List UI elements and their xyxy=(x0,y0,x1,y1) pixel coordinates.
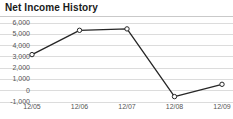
page-title: Net Income History xyxy=(5,2,98,13)
data-point-marker xyxy=(30,52,34,56)
data-point-marker xyxy=(77,28,81,32)
x-axis-tick-labels: 12/0512/0612/0712/0812/09 xyxy=(32,103,233,119)
chart-plot-area: 6,0005,0004,0003,0002,0001,0000-1,000 12… xyxy=(0,17,233,119)
series-markers xyxy=(30,27,224,99)
data-point-marker xyxy=(125,27,129,31)
x-axis-tick-label: 12/09 xyxy=(213,103,231,111)
x-axis-tick-label: 12/08 xyxy=(166,103,184,111)
x-axis-tick-label: 12/06 xyxy=(71,103,89,111)
data-point-marker xyxy=(172,94,176,98)
x-axis-tick-label: 12/07 xyxy=(118,103,136,111)
series-line-path xyxy=(32,29,222,97)
x-axis-tick-label: 12/05 xyxy=(23,103,41,111)
data-point-marker xyxy=(220,82,224,86)
net-income-history-widget: Net Income History 6,0005,0004,0003,0002… xyxy=(0,0,233,119)
